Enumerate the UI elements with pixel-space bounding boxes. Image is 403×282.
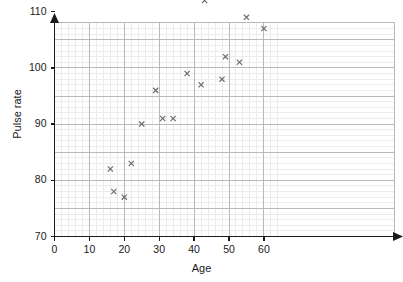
- x-axis-tick-label: 0: [40, 243, 70, 255]
- x-axis-tick-label: 60: [249, 243, 279, 255]
- y-axis-tick-label: 80: [17, 173, 47, 185]
- x-axis-tick-label: 30: [144, 243, 174, 255]
- scatter-plot-figure: Pulse rate Age 0102030405060708090100110: [0, 0, 403, 282]
- y-axis-title: Pulse rate: [11, 79, 23, 149]
- y-axis-tick-label: 90: [17, 117, 47, 129]
- minor-gridlines: [55, 22, 395, 237]
- x-axis-arrowhead: [393, 232, 403, 241]
- x-axis-tick-label: 20: [109, 243, 139, 255]
- y-axis-tick-label: 70: [17, 230, 47, 242]
- plot-canvas: [0, 0, 403, 282]
- data-point-marker: [202, 0, 207, 3]
- x-axis-tick-label: 10: [74, 243, 104, 255]
- y-axis-tick-label: 110: [17, 5, 47, 17]
- y-axis-tick-label: 100: [17, 61, 47, 73]
- data-point-marker: [244, 15, 249, 20]
- x-axis-tick-label: 40: [179, 243, 209, 255]
- x-axis-tick-label: 50: [214, 243, 244, 255]
- x-axis-title: Age: [0, 262, 403, 274]
- y-axis-arrowhead: [50, 13, 59, 23]
